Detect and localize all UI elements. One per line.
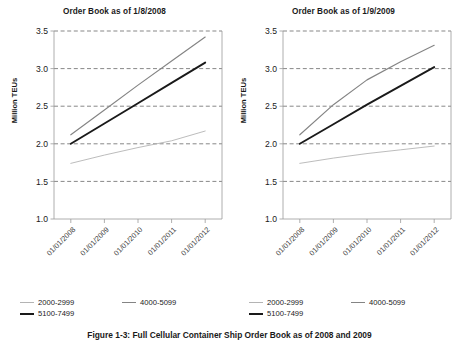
- chart-panel-right: Order Book as of 1/9/2009 Million TEUs 1…: [229, 0, 458, 325]
- svg-text:01/01/2008: 01/01/2008: [45, 225, 78, 258]
- legend-item-2000-2999: 2000-2999: [249, 298, 351, 308]
- svg-text:01/01/2012: 01/01/2012: [179, 225, 212, 258]
- legend-label: 4000-5099: [369, 298, 405, 308]
- plot-area-right: 1.01.52.02.53.03.501/01/200801/01/200901…: [229, 0, 458, 325]
- svg-text:01/01/2009: 01/01/2009: [307, 225, 340, 258]
- legend-right: 2000-2999 4000-5099 5100-7499: [249, 297, 454, 319]
- svg-text:2.0: 2.0: [265, 139, 277, 149]
- svg-text:2.0: 2.0: [36, 139, 48, 149]
- legend-label: 5100-7499: [267, 309, 303, 319]
- legend-row: 2000-2999 4000-5099: [249, 297, 454, 308]
- svg-text:3.0: 3.0: [36, 64, 48, 74]
- legend-line-icon: [122, 302, 136, 303]
- svg-text:01/01/2012: 01/01/2012: [408, 225, 441, 258]
- svg-text:3.5: 3.5: [265, 26, 277, 36]
- legend-label: 2000-2999: [267, 298, 303, 308]
- svg-text:3.5: 3.5: [36, 26, 48, 36]
- svg-text:01/01/2010: 01/01/2010: [112, 225, 145, 258]
- legend-left: 2000-2999 4000-5099 5100-7499: [20, 297, 225, 319]
- legend-row: 5100-7499: [249, 308, 454, 319]
- legend-item-5100-7499: 5100-7499: [249, 309, 351, 319]
- legend-line-icon: [20, 302, 34, 303]
- svg-text:01/01/2011: 01/01/2011: [146, 225, 178, 257]
- svg-text:01/01/2009: 01/01/2009: [78, 225, 111, 258]
- legend-label: 2000-2999: [38, 298, 74, 308]
- legend-label: 4000-5099: [140, 298, 176, 308]
- legend-item-5100-7499: 5100-7499: [20, 309, 122, 319]
- legend-row: 5100-7499: [20, 308, 225, 319]
- figure-caption: Figure 1-3: Full Cellular Container Ship…: [0, 330, 459, 340]
- svg-text:2.5: 2.5: [265, 101, 277, 111]
- svg-text:01/01/2011: 01/01/2011: [375, 225, 407, 257]
- legend-line-icon: [351, 302, 365, 303]
- legend-row: 2000-2999 4000-5099: [20, 297, 225, 308]
- legend-label: 5100-7499: [38, 309, 74, 319]
- svg-text:2.5: 2.5: [36, 101, 48, 111]
- legend-item-4000-5099: 4000-5099: [122, 298, 176, 308]
- svg-text:1.5: 1.5: [265, 177, 277, 187]
- svg-text:01/01/2008: 01/01/2008: [274, 225, 307, 258]
- legend-line-icon: [249, 313, 263, 315]
- chart-panel-left: Order Book as of 1/8/2008 Million TEUs 1…: [0, 0, 229, 325]
- svg-text:1.5: 1.5: [36, 177, 48, 187]
- svg-text:1.0: 1.0: [265, 214, 277, 224]
- legend-item-4000-5099: 4000-5099: [351, 298, 405, 308]
- legend-line-icon: [20, 313, 34, 315]
- legend-line-icon: [249, 302, 263, 303]
- legend-item-2000-2999: 2000-2999: [20, 298, 122, 308]
- svg-text:3.0: 3.0: [265, 64, 277, 74]
- plot-area-left: 1.01.52.02.53.03.501/01/200801/01/200901…: [0, 0, 229, 325]
- svg-text:01/01/2010: 01/01/2010: [341, 225, 374, 258]
- svg-text:1.0: 1.0: [36, 214, 48, 224]
